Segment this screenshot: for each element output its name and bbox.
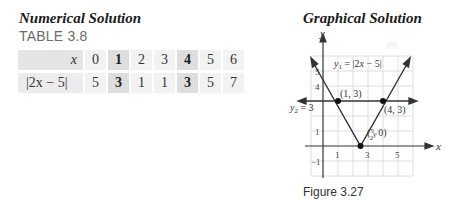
y-axis-label: y bbox=[319, 27, 325, 39]
point-label-4-3: (4, 3) bbox=[384, 104, 406, 116]
y2-label: y2 = 3 bbox=[289, 102, 314, 115]
x-axis-label: x bbox=[435, 140, 441, 152]
figure-caption: Figure 3.27 bbox=[303, 185, 364, 199]
point-label-5half-0: (52, 0) bbox=[367, 127, 387, 142]
intersection-points bbox=[335, 98, 386, 149]
svg-text:1: 1 bbox=[315, 127, 320, 137]
svg-text:1: 1 bbox=[335, 150, 340, 160]
watermark: (b) bbox=[387, 40, 397, 49]
svg-text:3: 3 bbox=[365, 150, 370, 160]
point-label-1-3: (1, 3) bbox=[340, 88, 362, 100]
svg-text:−1: −1 bbox=[311, 157, 321, 167]
svg-text:5: 5 bbox=[395, 150, 400, 160]
y1-label: y1 = |2x − 5| bbox=[333, 58, 382, 71]
graph: y x 1 3 5 5 4 1 −1 y1 = |2x − 5| y2 = 3 … bbox=[0, 0, 455, 203]
svg-text:4: 4 bbox=[315, 82, 320, 92]
